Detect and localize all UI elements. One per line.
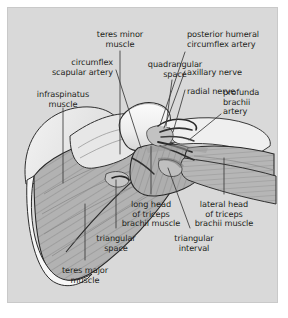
label-triangular-space: triangular space [96, 234, 135, 253]
label-long-head-of-triceps-brachii-muscle: long head of triceps brachii muscle [122, 200, 181, 229]
label-infraspinatus-muscle: infraspinatus muscle [37, 90, 89, 109]
label-circumflex-scapular-artery: circumflex scapular artery [52, 58, 113, 77]
label-teres-minor-muscle: teres minor muscle [97, 30, 143, 49]
label-layer: teres minor musclecircumflex scapular ar… [8, 8, 278, 303]
figure-panel: teres minor musclecircumflex scapular ar… [7, 7, 278, 303]
label-axillary-nerve: axillary nerve [187, 68, 242, 78]
anatomy-figure: teres minor musclecircumflex scapular ar… [0, 0, 288, 318]
label-profunda-brachii-artery: profunda brachii artery [223, 88, 259, 117]
label-lateral-head-of-triceps-brachii-muscle: lateral head of triceps brachii muscle [195, 200, 254, 229]
label-teres-major-muscle: teres major muscle [62, 266, 108, 285]
label-triangular-interval: triangular interval [174, 234, 213, 253]
label-posterior-humeral-circumflex-artery: posterior humeral circumflex artery [187, 30, 259, 49]
